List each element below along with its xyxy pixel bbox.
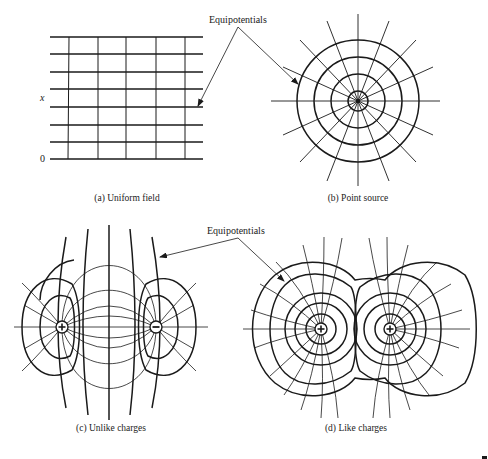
- positive-charge-icon: [315, 323, 327, 335]
- point-source-dot: [356, 99, 360, 103]
- panel-d-like-charges: [243, 237, 476, 418]
- equipotentials-arrows-bottom: [160, 238, 284, 281]
- panel-b-point-source: [271, 14, 440, 186]
- panel-a-uniform-field: [50, 37, 203, 159]
- panel-c-unlike-charges: [14, 225, 208, 420]
- equipotentials-label-bottom: Equipotentials: [207, 226, 265, 236]
- equipotentials-arrows-top: [198, 27, 298, 106]
- positive-charge-icon: [384, 323, 396, 335]
- field-lines: [68, 37, 185, 159]
- equipotentials-label-top: Equipotentials: [209, 15, 267, 25]
- caption-b: (b) Point source: [328, 194, 389, 204]
- axis-label-origin: 0: [40, 154, 45, 164]
- negative-charge-icon: [150, 321, 162, 333]
- axis-label-x: x: [40, 93, 44, 103]
- caption-d: (d) Like charges: [325, 424, 387, 434]
- caption-a: (a) Uniform field: [94, 194, 159, 204]
- positive-charge-icon: [56, 321, 68, 333]
- caption-c: (c) Unlike charges: [76, 424, 146, 434]
